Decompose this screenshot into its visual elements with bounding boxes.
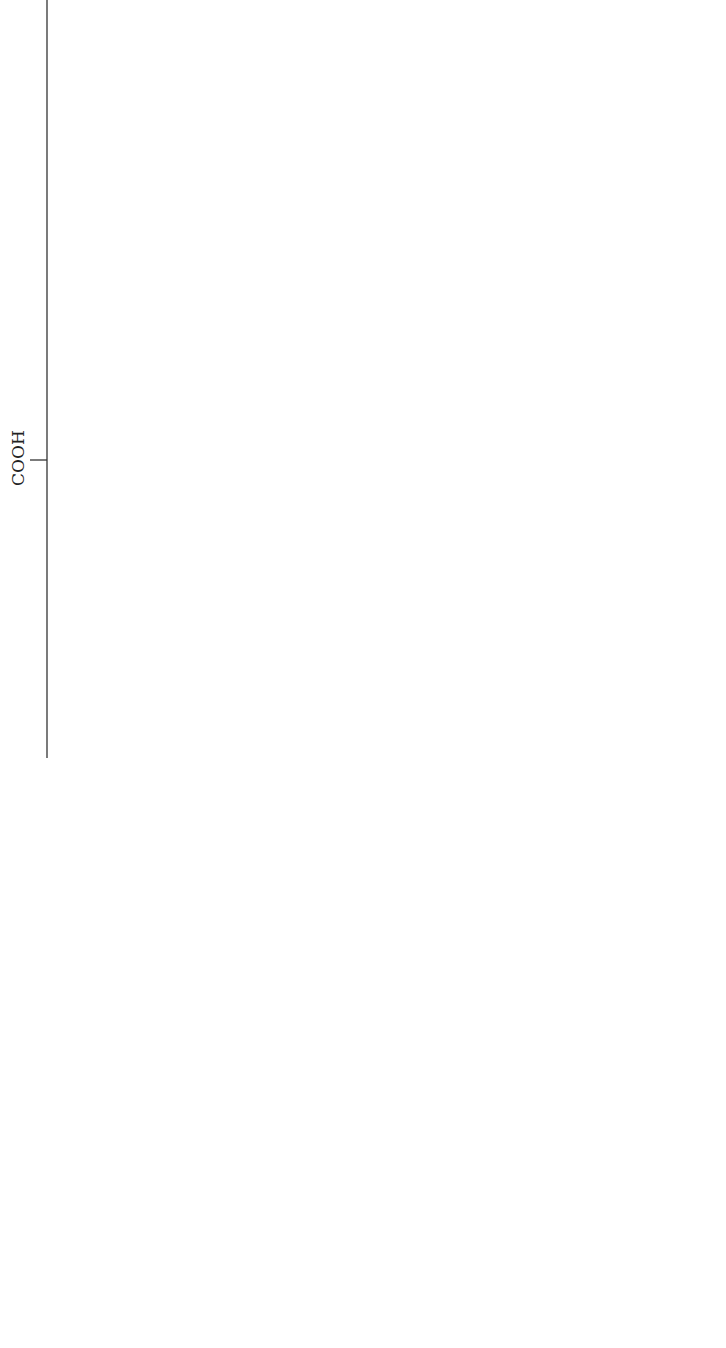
cooh-label: COOH [8, 430, 28, 486]
figure-screen: COOH [0, 0, 726, 1348]
peptide-start: COOH [8, 0, 47, 1308]
landscape-group: COOH [8, 0, 47, 1308]
scheme-screen: COOH [0, 0, 726, 1348]
